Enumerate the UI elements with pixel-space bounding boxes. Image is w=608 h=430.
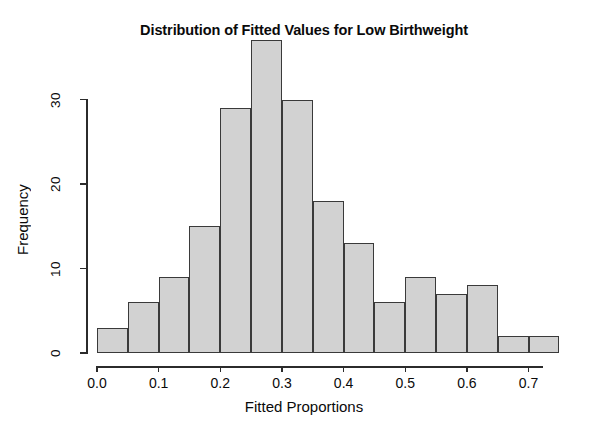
x-axis-tick-label: 0.7 bbox=[509, 375, 549, 391]
x-axis-tick bbox=[466, 366, 468, 372]
y-axis-line bbox=[86, 99, 88, 354]
x-axis-tick-label: 0.2 bbox=[200, 375, 240, 391]
y-axis-tick-label: 20 bbox=[48, 168, 78, 200]
x-axis-tick-label: 0.1 bbox=[139, 375, 179, 391]
x-axis-line bbox=[97, 366, 543, 368]
x-axis-tick-label: 0.0 bbox=[77, 375, 117, 391]
histogram-bar bbox=[220, 108, 251, 353]
x-axis-tick bbox=[96, 366, 98, 372]
x-axis-tick bbox=[281, 366, 283, 372]
x-axis-title: Fitted Proportions bbox=[0, 398, 608, 415]
y-axis-title: Frequency bbox=[14, 140, 34, 300]
x-axis-tick bbox=[528, 366, 530, 372]
y-axis-tick bbox=[80, 99, 86, 101]
histogram-figure: Distribution of Fitted Values for Low Bi… bbox=[0, 0, 608, 430]
histogram-bar bbox=[282, 100, 313, 354]
y-axis-tick-label: 0 bbox=[48, 337, 78, 369]
x-axis-tick bbox=[158, 366, 160, 372]
x-axis-tick-label: 0.3 bbox=[262, 375, 302, 391]
histogram-bar bbox=[436, 294, 467, 353]
histogram-bar bbox=[97, 328, 128, 353]
histogram-bar bbox=[467, 285, 498, 353]
histogram-bar bbox=[313, 201, 344, 353]
histogram-bar bbox=[189, 226, 220, 353]
x-axis-tick bbox=[220, 366, 222, 372]
x-axis-tick bbox=[343, 366, 345, 372]
histogram-bar bbox=[128, 302, 159, 353]
histogram-bar bbox=[529, 336, 560, 353]
x-axis-tick-label: 0.5 bbox=[385, 375, 425, 391]
histogram-bar bbox=[251, 40, 282, 353]
x-axis-tick bbox=[405, 366, 407, 372]
y-axis-tick-label: 30 bbox=[48, 84, 78, 116]
y-axis-tick bbox=[80, 183, 86, 185]
x-axis-tick-label: 0.6 bbox=[447, 375, 487, 391]
plot-area: Frequency Fitted Proportions 0102030 0.0… bbox=[0, 0, 608, 430]
y-axis-tick bbox=[80, 268, 86, 270]
histogram-bar bbox=[374, 302, 405, 353]
histogram-bar bbox=[498, 336, 529, 353]
histogram-bar bbox=[344, 243, 375, 353]
y-axis-tick-label: 10 bbox=[48, 253, 78, 285]
histogram-bar bbox=[405, 277, 436, 353]
histogram-bar bbox=[159, 277, 190, 353]
x-axis-tick-label: 0.4 bbox=[324, 375, 364, 391]
y-axis-tick bbox=[80, 352, 86, 354]
